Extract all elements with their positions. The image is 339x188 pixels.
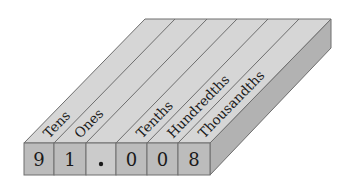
digit-hundredths: 0 [157,149,168,170]
digit-tenths: 0 [126,149,137,170]
digit-thousandths: 8 [188,149,199,170]
digit-tens: 9 [33,149,44,170]
place-value-diagram: 9 1 0 0 8 Tens Ones Tenths Hundredths Th… [0,0,339,188]
place-value-block: 9 1 0 0 8 Tens Ones Tenths Hundredths Th… [0,0,339,188]
cell-decimal [86,143,116,175]
decimal-point [99,162,103,166]
front-cells [24,143,210,175]
digit-ones: 1 [64,149,75,170]
